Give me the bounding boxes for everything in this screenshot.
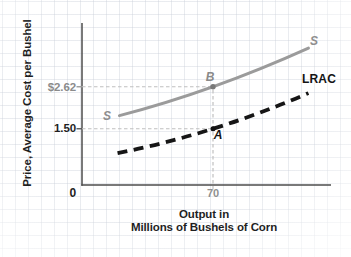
y-tick-label-150: 1.50 (27, 122, 76, 134)
x-axis-title-line1: Output in (104, 208, 304, 221)
origin-label: 0 (58, 186, 76, 200)
x-tick-label-70: 70 (198, 187, 228, 199)
point-b-dot (210, 84, 215, 89)
point-b-label: B (203, 70, 217, 84)
point-a-label: A (211, 128, 225, 142)
x-axis-title: Output in Millions of Bushels of Corn (104, 208, 304, 233)
x-axis-title-line2: Millions of Bushels of Corn (104, 221, 304, 234)
lrac-label: LRAC (297, 72, 341, 86)
supply-label-right: S (307, 34, 321, 48)
y-tick-label-262: $2.62 (27, 81, 76, 93)
y-axis-title: Price, Average Cost per Bushel (21, 18, 35, 188)
economics-figure: Price, Average Cost per Bushel $2.62 1.5… (0, 0, 351, 257)
supply-label-left: S (100, 109, 114, 123)
